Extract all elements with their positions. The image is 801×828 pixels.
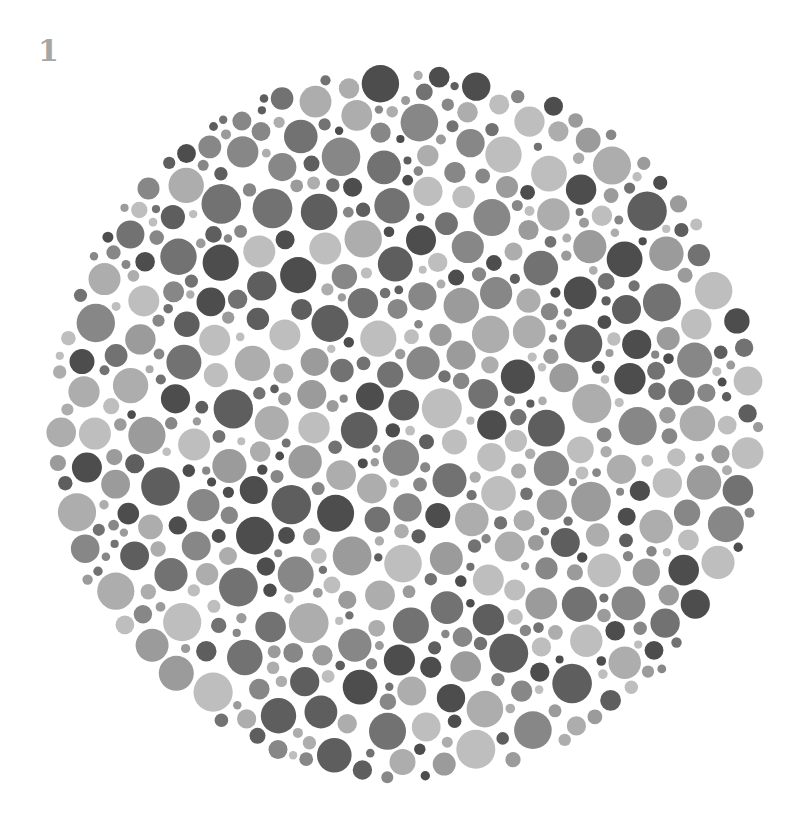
- plate-dot: [507, 609, 523, 625]
- plate-dot: [516, 289, 540, 313]
- plate-dot: [177, 144, 196, 163]
- plate-dot: [562, 234, 571, 243]
- plate-dot: [372, 445, 380, 453]
- plate-dot: [122, 260, 131, 269]
- plate-dot: [116, 221, 144, 249]
- plate-dot: [688, 244, 710, 266]
- plate-dot: [345, 220, 382, 257]
- plate-dot: [403, 585, 416, 598]
- plate-dot: [303, 736, 316, 749]
- plate-dot: [474, 637, 487, 650]
- plate-dot: [416, 84, 433, 101]
- plate-dot: [61, 331, 76, 346]
- plate-dot: [576, 128, 601, 153]
- ishihara-plate: [0, 0, 801, 828]
- plate-dot: [276, 676, 287, 687]
- plate-dot: [106, 449, 122, 465]
- plate-dot: [70, 349, 95, 374]
- plate-dot: [597, 609, 611, 623]
- plate-dot: [448, 714, 462, 728]
- plate-dot: [607, 242, 643, 278]
- plate-dot: [213, 430, 226, 443]
- plate-dot: [614, 363, 645, 394]
- plate-dot: [556, 320, 566, 330]
- plate-dot: [674, 500, 700, 526]
- plate-dot: [416, 213, 424, 221]
- plate-dot: [442, 429, 467, 454]
- plate-dot: [258, 106, 266, 114]
- plate-dot: [496, 176, 518, 198]
- plate-dot: [116, 615, 135, 634]
- plate-dot: [93, 567, 102, 576]
- plate-dot: [504, 579, 525, 600]
- plate-dot: [401, 96, 410, 105]
- plate-dot: [383, 440, 419, 476]
- plate-dot: [504, 395, 515, 406]
- plate-dot: [564, 324, 602, 362]
- plate-dot: [651, 351, 659, 359]
- plate-dot: [486, 255, 502, 271]
- plate-dot: [263, 584, 276, 597]
- plate-dot: [559, 734, 571, 746]
- plate-dot: [567, 716, 586, 735]
- plate-dot: [203, 245, 239, 281]
- plate-dot: [228, 290, 247, 309]
- plate-dot: [262, 149, 271, 158]
- plate-dot: [114, 418, 127, 431]
- plate-dot: [430, 542, 463, 575]
- plate-dot: [82, 574, 92, 584]
- plate-dot: [475, 169, 490, 184]
- plate-dot: [394, 524, 409, 539]
- plate-dot: [320, 75, 330, 85]
- plate-dot: [205, 226, 222, 243]
- plate-dot: [276, 230, 295, 249]
- plate-dot: [298, 412, 329, 443]
- plate-dot: [393, 493, 421, 521]
- plate-dot: [534, 451, 569, 486]
- plate-dot: [718, 416, 737, 435]
- plate-dot: [417, 145, 438, 166]
- plate-dot: [396, 135, 404, 143]
- plate-dot: [406, 225, 436, 255]
- plate-dot: [450, 651, 481, 682]
- plate-dot: [149, 230, 164, 245]
- plate-dot: [390, 749, 416, 775]
- plate-dot: [309, 232, 341, 264]
- plate-dot: [592, 468, 601, 477]
- plate-dot: [726, 361, 735, 370]
- plate-dot: [662, 428, 678, 444]
- plate-dot: [425, 503, 450, 528]
- plate-dot: [243, 183, 256, 196]
- plate-dot: [163, 157, 175, 169]
- plate-dot: [341, 412, 378, 449]
- plate-dot: [412, 713, 441, 742]
- plate-dot: [278, 392, 291, 405]
- plate-dot: [600, 446, 611, 457]
- plate-dot: [356, 383, 384, 411]
- plate-dot: [274, 117, 285, 128]
- plate-dot: [419, 434, 434, 449]
- plate-dot: [154, 558, 187, 591]
- plate-dot: [437, 280, 446, 289]
- plate-dot: [58, 476, 72, 490]
- plate-dot: [202, 467, 210, 475]
- plate-dot: [301, 348, 329, 376]
- plate-dot: [275, 452, 284, 461]
- plate-dot: [221, 507, 238, 524]
- plate-dot: [606, 129, 617, 140]
- plate-dot: [453, 627, 473, 647]
- plate-dot: [511, 463, 526, 478]
- plate-dot: [112, 302, 121, 311]
- plate-dot: [637, 157, 650, 170]
- plate-dot: [722, 465, 732, 475]
- plate-dot: [319, 566, 327, 574]
- plate-dot: [323, 576, 340, 593]
- plate-dot: [528, 353, 537, 362]
- plate-dot: [393, 608, 429, 644]
- plate-dots: [46, 65, 763, 783]
- plate-dot: [548, 625, 563, 640]
- plate-dot: [420, 657, 441, 678]
- plate-dot: [280, 257, 316, 293]
- plate-dot: [113, 368, 148, 403]
- plate-dot: [283, 643, 303, 663]
